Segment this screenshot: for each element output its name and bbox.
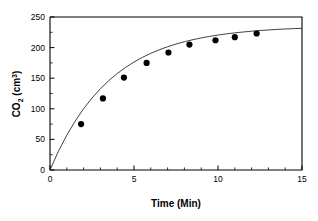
chart-figure: 051015 050100150200250 Time (Min) CO2 (c… bbox=[0, 0, 318, 221]
y-axis-title-unit-open: (cm bbox=[11, 78, 22, 99]
x-axis-title-text: Time (Min) bbox=[151, 198, 201, 209]
y-axis-title-unit-close: ) bbox=[11, 71, 22, 74]
data-point-marker bbox=[78, 121, 84, 127]
y-tick-label: 100 bbox=[31, 104, 45, 114]
co2-vs-time-scatter-plot: 051015 050100150200250 Time (Min) CO2 (c… bbox=[0, 0, 318, 221]
y-tick-label: 0 bbox=[40, 165, 45, 175]
data-point-marker bbox=[186, 41, 192, 47]
x-tick-label: 10 bbox=[213, 174, 223, 184]
data-point-marker bbox=[121, 74, 127, 80]
y-axis-title-base: CO bbox=[11, 102, 22, 117]
y-tick-label: 50 bbox=[36, 134, 46, 144]
chart-background bbox=[0, 0, 318, 221]
data-point-marker bbox=[165, 49, 171, 55]
x-tick-label: 0 bbox=[48, 174, 53, 184]
x-tick-label: 15 bbox=[297, 174, 307, 184]
y-tick-label: 250 bbox=[31, 12, 45, 22]
data-point-marker bbox=[144, 60, 150, 66]
data-point-marker bbox=[232, 34, 238, 40]
y-tick-label: 200 bbox=[31, 43, 45, 53]
y-tick-label: 150 bbox=[31, 73, 45, 83]
data-point-marker bbox=[254, 30, 260, 36]
data-point-marker bbox=[100, 95, 106, 101]
x-tick-label: 5 bbox=[132, 174, 137, 184]
x-axis-title: Time (Min) bbox=[151, 198, 201, 209]
data-point-marker bbox=[212, 37, 218, 43]
